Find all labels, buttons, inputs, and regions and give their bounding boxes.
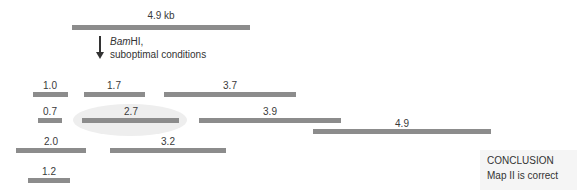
conclusion-box: CONCLUSION Map II is correct — [480, 150, 577, 190]
enzyme-name: Bam — [110, 36, 131, 47]
full-fragment-label: 4.9 kb — [147, 10, 174, 21]
fragment-bar — [164, 92, 296, 97]
fragment-label: 3.7 — [223, 80, 237, 91]
arrow-down-icon — [96, 36, 104, 60]
condition-text: suboptimal conditions — [110, 49, 206, 60]
fragment-label: 2.7 — [124, 106, 138, 117]
fragment-label: 4.9 — [395, 118, 409, 129]
fragment-bar — [16, 148, 86, 153]
fragment-label: 1.2 — [42, 166, 56, 177]
fragment-bar — [82, 118, 179, 123]
fragment-label: 3.2 — [161, 136, 175, 147]
fragment-label: 1.7 — [107, 80, 121, 91]
fragment-bar — [199, 118, 341, 123]
fragment-bar — [84, 92, 145, 97]
fragment-bar — [110, 148, 226, 153]
fragment-bar — [313, 129, 491, 134]
conclusion-text: Map II is correct — [487, 168, 577, 183]
fragment-bar — [28, 178, 70, 183]
fragment-label: 2.0 — [44, 136, 58, 147]
fragment-label: 1.0 — [43, 80, 57, 91]
fragment-label: 3.9 — [263, 106, 277, 117]
conclusion-heading: CONCLUSION — [487, 153, 577, 168]
full-fragment-bar — [72, 25, 250, 30]
enzyme-suffix: HI, — [131, 36, 144, 47]
fragment-label: 0.7 — [43, 106, 57, 117]
enzyme-treatment-label: BamHI, suboptimal conditions — [110, 35, 206, 61]
fragment-bar — [33, 92, 68, 97]
fragment-bar — [38, 118, 62, 123]
